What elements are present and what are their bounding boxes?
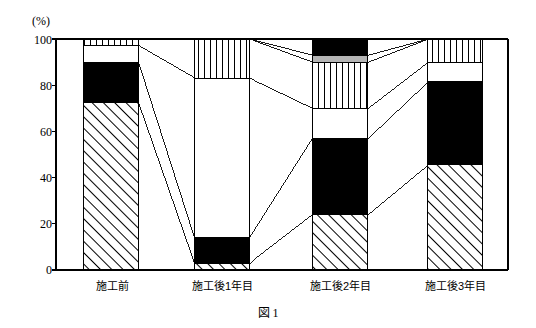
figure-caption: 図 1 bbox=[208, 303, 328, 321]
x-category-label-3: 施工後2年目 bbox=[283, 277, 398, 293]
x-category-label-1: 施工前 bbox=[62, 277, 162, 293]
y-tick-80: 80 bbox=[12, 79, 52, 94]
y-tick-60: 60 bbox=[12, 125, 52, 140]
y-tick-100: 100 bbox=[12, 33, 52, 48]
y-tick-20: 20 bbox=[12, 217, 52, 232]
y-tick-0: 0 bbox=[12, 263, 52, 278]
x-category-label-2: 施工後1年目 bbox=[165, 277, 280, 293]
chart-geometry bbox=[52, 39, 508, 270]
x-category-label-4: 施工後3年目 bbox=[398, 277, 513, 293]
figure-container: (%) 100 80 60 40 20 0 施工前 施工後1年目 施工後2年目 … bbox=[0, 0, 536, 328]
y-tick-40: 40 bbox=[12, 171, 52, 186]
